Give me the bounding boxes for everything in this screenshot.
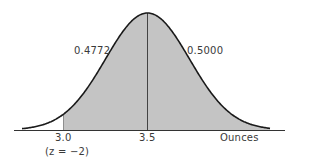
- right-area-label: 0.5000: [187, 45, 223, 56]
- tick-label-3-0: 3.0: [55, 132, 72, 143]
- z-score-note: (z = −2): [45, 146, 89, 157]
- axis-unit-label: Ounces: [220, 132, 259, 143]
- left-area-label: 0.4772: [74, 45, 110, 56]
- tick-label-3-5: 3.5: [139, 132, 156, 143]
- shaded-area: [64, 13, 271, 130]
